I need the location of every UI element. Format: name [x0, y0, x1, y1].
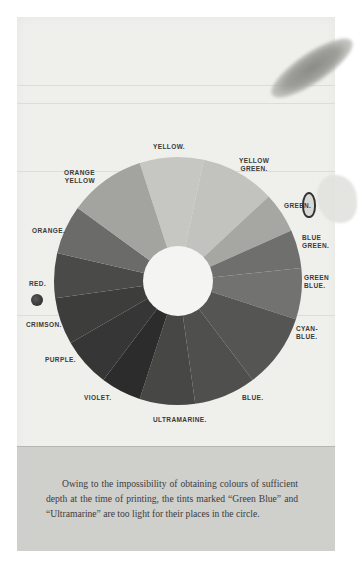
label-purple: PURPLE.	[45, 356, 76, 364]
caption-text: Owing to the impossibility of obtaining …	[46, 476, 298, 521]
label-orange: ORANGE.	[32, 227, 65, 235]
label-yellow: YELLOW.	[153, 143, 185, 151]
label-cyan-blue: CYAN- BLUE.	[296, 325, 318, 340]
label-green: GREEN.	[284, 202, 311, 210]
label-yellow-green: YELLOW GREEN.	[239, 157, 269, 172]
label-violet: VIOLET.	[84, 394, 111, 402]
label-crimson: CRIMSON.	[26, 321, 62, 329]
label-blue: BLUE.	[242, 394, 264, 402]
label-green-blue: GREEN BLUE.	[304, 274, 329, 289]
label-orange-yellow: ORANGE YELLOW	[64, 169, 95, 184]
label-ultramarine: ULTRAMARINE.	[153, 416, 207, 424]
label-blue-green: BLUE GREEN.	[302, 234, 329, 249]
label-red: RED.	[29, 280, 46, 288]
wheel-centre-hole	[143, 246, 213, 316]
red-dot-mark	[31, 294, 43, 306]
